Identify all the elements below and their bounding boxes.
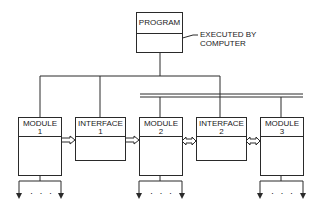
continuation-dots-1: · · ·	[30, 188, 54, 198]
executed-by-computer-label: EXECUTED BY COMPUTER	[200, 30, 256, 48]
continuation-dots-2: · · ·	[150, 188, 174, 198]
module-1-box: MODULE1	[18, 117, 62, 176]
interface-2-box: INTERFACE2	[196, 117, 247, 161]
continuation-dots-3: · · ·	[271, 188, 295, 198]
program-box: PROGRAM	[136, 12, 183, 53]
program-title: PROGRAM	[137, 13, 182, 34]
module-3-box: MODULE3	[260, 117, 304, 176]
interface-1-box: INTERFACE1	[75, 117, 126, 161]
module-2-box: MODULE2	[139, 117, 183, 176]
